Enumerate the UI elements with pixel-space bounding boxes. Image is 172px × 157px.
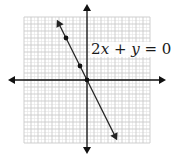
data-point: [64, 36, 69, 41]
eq-coef: 2: [91, 40, 101, 58]
eq-rhs: 0: [162, 40, 172, 58]
x-axis-right-arrow-icon: [159, 76, 166, 84]
y-axis-down-arrow-icon: [83, 147, 91, 154]
eq-var-x: x: [101, 40, 109, 58]
data-point: [85, 78, 90, 83]
eq-var-y: y: [131, 40, 139, 58]
equation-label: 2x + y = 0: [90, 42, 172, 57]
coordinate-plane: [0, 0, 172, 157]
y-axis-up-arrow-icon: [83, 4, 91, 11]
x-axis-left-arrow-icon: [8, 76, 15, 84]
eq-plus: +: [109, 40, 131, 58]
data-point: [78, 64, 83, 69]
eq-equals: =: [140, 40, 162, 58]
